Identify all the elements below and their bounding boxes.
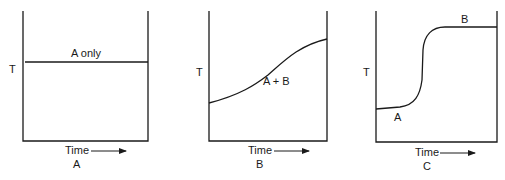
panel-b-curve-label: A + B <box>263 76 290 87</box>
panel-b-y-axis-label: T <box>196 67 203 78</box>
panel-c-x-axis-label: Time <box>415 147 439 158</box>
panel-a-caption: A <box>73 159 80 170</box>
panel-a-axes <box>23 11 148 141</box>
panel-b-caption: B <box>256 159 263 170</box>
panel-c <box>376 11 497 153</box>
panel-c-curve-label-b: B <box>461 14 468 25</box>
panel-b-x-axis-label: Time <box>248 145 272 156</box>
panel-a-curve-label: A only <box>71 48 101 59</box>
panel-b-curve <box>209 39 327 103</box>
panel-a <box>23 11 148 151</box>
panel-a-x-axis-label: Time <box>65 145 89 156</box>
panel-c-caption: C <box>423 161 431 172</box>
panel-c-y-axis-label: T <box>363 67 370 78</box>
panel-a-y-axis-label: T <box>9 64 16 75</box>
panel-c-curve <box>376 27 497 109</box>
panel-c-curve-label-a: A <box>394 112 401 123</box>
